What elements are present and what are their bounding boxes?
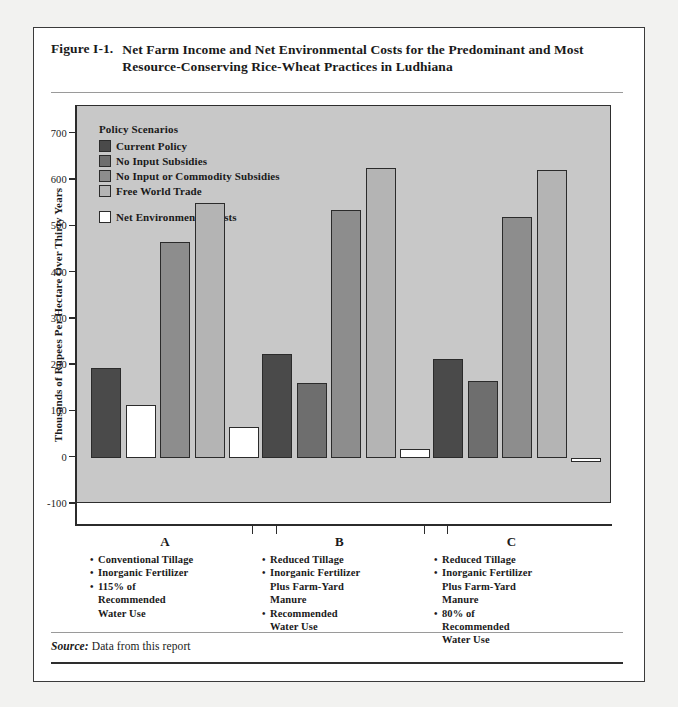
legend-swatch-current-policy <box>99 140 111 152</box>
y-axis-tick <box>69 178 75 179</box>
group-letter: A <box>90 534 240 550</box>
chart-legend: Policy Scenarios Current Policy No Input… <box>99 123 280 224</box>
y-axis-tick <box>69 456 75 457</box>
group-bullet-item: •Reduced Tillage <box>262 553 417 566</box>
bullet-dot-icon: • <box>90 580 98 593</box>
legend-swatch-no-input-subsidies <box>99 155 111 167</box>
group-bullet-item: •Conventional Tillage <box>90 553 240 566</box>
group-caption-b: B•Reduced Tillage•Inorganic FertilizerPl… <box>262 534 417 633</box>
source-divider <box>51 632 623 633</box>
x-axis-separator <box>276 525 277 534</box>
legend-item-no-input-or-commodity-subsidies: No Input or Commodity Subsidies <box>99 168 280 183</box>
bottom-divider <box>51 662 623 664</box>
y-axis-tick-label: 400 <box>25 266 67 277</box>
y-axis-tick <box>69 410 75 411</box>
chart-bar <box>571 458 601 463</box>
y-axis-tick <box>69 502 75 503</box>
legend-title: Policy Scenarios <box>99 123 280 135</box>
chart-bar <box>91 368 121 457</box>
group-bullet-text: 80% ofRecommendedWater Use <box>442 607 589 647</box>
y-axis-line <box>75 105 77 525</box>
figure-frame: Figure I-1. Net Farm Income and Net Envi… <box>33 27 645 682</box>
group-caption-a: A•Conventional Tillage•Inorganic Fertili… <box>90 534 240 620</box>
chart-bar <box>537 170 567 458</box>
figure-number: Figure I-1. <box>51 41 122 57</box>
legend-swatch-free-world-trade <box>99 185 111 197</box>
group-bullet-list: •Conventional Tillage•Inorganic Fertiliz… <box>90 553 240 620</box>
bullet-dot-icon: • <box>90 566 98 579</box>
y-axis-tick <box>69 132 75 133</box>
source-label: Source: <box>51 640 89 652</box>
figure-title-block: Figure I-1. Net Farm Income and Net Envi… <box>51 41 623 75</box>
legend-item-no-input-subsidies: No Input Subsidies <box>99 153 280 168</box>
y-axis-tick-label: 100 <box>25 405 67 416</box>
source-note: Source: Data from this report <box>51 640 191 652</box>
legend-item-free-world-trade: Free World Trade <box>99 183 280 198</box>
legend-label-no-input-or-commodity-subsidies: No Input or Commodity Subsidies <box>116 170 280 182</box>
bullet-dot-icon: • <box>434 607 442 620</box>
group-letter: B <box>262 534 417 550</box>
group-bullet-text: Inorganic Fertilizer <box>98 566 240 579</box>
figure-page: Figure I-1. Net Farm Income and Net Envi… <box>0 0 678 707</box>
legend-swatch-no-input-or-commodity-subsidies <box>99 170 111 182</box>
x-axis-separator <box>252 525 253 534</box>
group-bullet-text: Conventional Tillage <box>98 553 240 566</box>
source-text: Data from this report <box>89 640 191 652</box>
y-axis-tick-label: 600 <box>25 174 67 185</box>
group-bullet-list: •Reduced Tillage•Inorganic FertilizerPlu… <box>262 553 417 633</box>
title-divider <box>51 92 623 93</box>
y-axis-tick <box>69 225 75 226</box>
bullet-dot-icon: • <box>262 607 270 620</box>
chart-bar <box>229 427 259 458</box>
group-bullet-item: •80% ofRecommendedWater Use <box>434 607 589 647</box>
bullet-dot-icon: • <box>262 566 270 579</box>
legend-spacer <box>99 198 280 209</box>
chart-bar <box>468 381 498 458</box>
group-bullet-item: •Reduced Tillage <box>434 553 589 566</box>
chart-plot-inner: Policy Scenarios Current Policy No Input… <box>77 106 610 502</box>
chart-bar <box>297 383 327 458</box>
y-axis-tick-label: 200 <box>25 359 67 370</box>
chart-bar <box>400 449 430 457</box>
bullet-dot-icon: • <box>262 553 270 566</box>
y-axis-tick <box>69 271 75 272</box>
y-axis-tick-label: 700 <box>25 127 67 138</box>
chart-bar <box>502 217 532 458</box>
y-axis-tick <box>69 317 75 318</box>
legend-label-current-policy: Current Policy <box>116 140 187 152</box>
chart-bar <box>433 359 463 458</box>
chart-plot-area: Policy Scenarios Current Policy No Input… <box>76 105 611 503</box>
group-bullet-text: Inorganic FertilizerPlus Farm-YardManure <box>270 566 417 606</box>
legend-label-no-input-subsidies: No Input Subsidies <box>116 155 207 167</box>
y-axis-tick <box>69 363 75 364</box>
figure-title-line-2: Resource-Conserving Rice-Wheat Practices… <box>122 59 452 74</box>
x-axis-separator <box>447 525 448 534</box>
x-axis-line <box>75 524 612 526</box>
y-axis-tick-label: 0 <box>25 451 67 462</box>
chart-bar <box>160 242 190 458</box>
group-bullet-text: RecommendedWater Use <box>270 607 417 634</box>
legend-item-net-environmental-costs: Net Environmental Costs <box>99 209 280 224</box>
bullet-dot-icon: • <box>434 553 442 566</box>
group-caption-c: C•Reduced Tillage•Inorganic FertilizerPl… <box>434 534 589 647</box>
group-bullet-item: •Inorganic Fertilizer <box>90 566 240 579</box>
legend-item-current-policy: Current Policy <box>99 138 280 153</box>
bullet-dot-icon: • <box>434 566 442 579</box>
bullet-dot-icon: • <box>90 553 98 566</box>
legend-swatch-net-environmental-costs <box>99 211 111 223</box>
group-bullet-text: Reduced Tillage <box>442 553 589 566</box>
chart-bar <box>126 405 156 458</box>
group-letter: C <box>434 534 589 550</box>
group-bullet-item: •Inorganic FertilizerPlus Farm-YardManur… <box>434 566 589 606</box>
legend-label-free-world-trade: Free World Trade <box>116 185 202 197</box>
group-bullet-text: Reduced Tillage <box>270 553 417 566</box>
y-axis-tick-label: 300 <box>25 312 67 323</box>
y-axis-tick-label: -100 <box>25 498 67 509</box>
chart-bar <box>262 354 292 458</box>
chart-bar <box>366 168 396 458</box>
y-axis-tick-label: 500 <box>25 220 67 231</box>
chart-bar <box>195 203 225 458</box>
figure-title-line-1: Net Farm Income and Net Environmental Co… <box>122 42 583 57</box>
group-bullet-item: •Inorganic FertilizerPlus Farm-YardManur… <box>262 566 417 606</box>
page-title: Net Farm Income and Net Environmental Co… <box>122 41 583 75</box>
